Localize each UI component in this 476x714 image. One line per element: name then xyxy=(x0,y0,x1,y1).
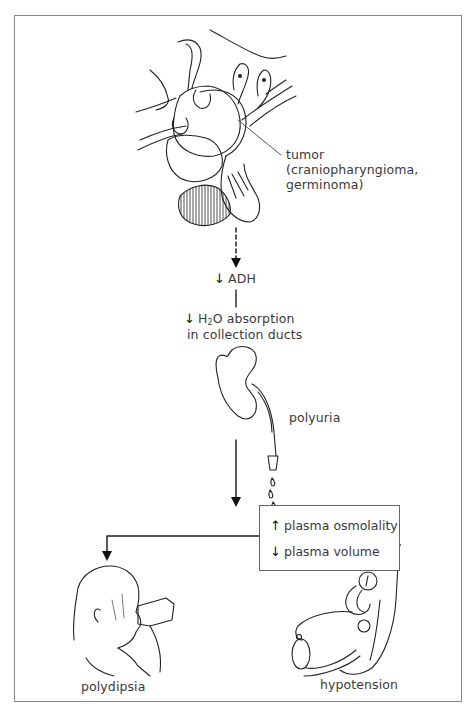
plasma-osmolality-row: ↑plasma osmolality xyxy=(270,518,398,533)
tumor-label-line1: tumor xyxy=(286,147,324,162)
diagram-artwork xyxy=(0,0,476,714)
h2o-label-suffix: O absorption xyxy=(213,311,295,326)
h2o-absorption-line2: in collection ducts xyxy=(187,327,302,342)
h2o-label-prefix: H xyxy=(198,311,208,326)
pituitary-tumor-illustration xyxy=(136,30,296,226)
adh-label: ADH xyxy=(228,271,256,286)
kidney-ureter-illustration xyxy=(216,347,278,510)
child-drinking-illustration xyxy=(73,566,174,676)
down-arrow-icon: ↓ xyxy=(270,544,280,559)
up-arrow-icon: ↑ xyxy=(270,518,280,533)
polydipsia-label: polydipsia xyxy=(81,679,145,694)
plasma-volume-row: ↓plasma volume xyxy=(270,544,380,559)
plasma-osmolality-label: plasma osmolality xyxy=(284,518,398,533)
down-arrow-icon: ↓ xyxy=(214,271,225,286)
down-arrow-icon: ↓ xyxy=(184,311,195,326)
tumor-label-line2: (craniopharyngioma, xyxy=(286,162,418,177)
adh-step: ↓ADH xyxy=(214,271,256,286)
blood-pressure-cuff-illustration xyxy=(292,562,398,676)
hypotension-label: hypotension xyxy=(320,677,398,692)
polyuria-label: polyuria xyxy=(289,410,340,425)
plasma-effects-box: ↑plasma osmolality ↓plasma volume xyxy=(259,505,400,571)
plasma-volume-label: plasma volume xyxy=(284,544,380,559)
tumor-label-line3: germinoma) xyxy=(286,177,363,192)
